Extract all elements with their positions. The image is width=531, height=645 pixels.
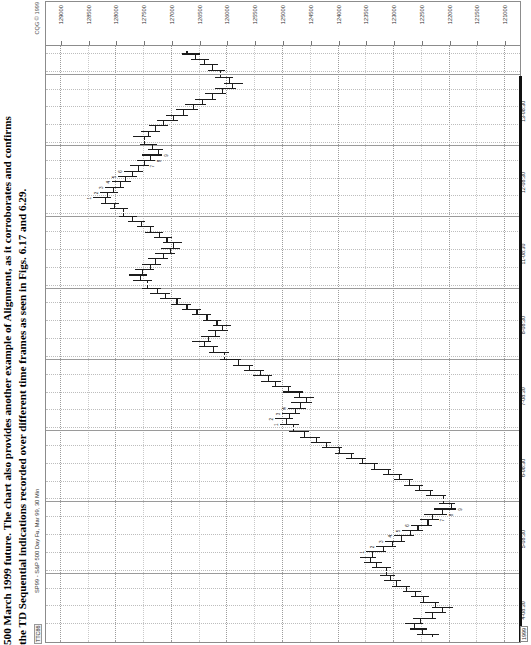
ohlc-bar (205, 93, 226, 94)
ohlc-open-tick (132, 172, 133, 175)
ohlc-bar (133, 280, 152, 281)
session-separator (46, 288, 520, 289)
ohlc-open-tick (306, 398, 307, 401)
ohlc-open-tick (370, 558, 371, 561)
ohlc-bar (209, 352, 229, 353)
ohlc-open-tick (339, 448, 340, 451)
time-gridline (46, 320, 520, 321)
time-axis[interactable]: 4-08:305-08:306-08:307-08:308-08:3011-08… (520, 47, 530, 643)
ohlc-open-tick (289, 414, 290, 417)
ohlc-open-tick (275, 382, 276, 385)
ohlc-bar (282, 413, 300, 414)
time-gridline (46, 588, 520, 589)
ohlc-open-tick (417, 526, 418, 529)
time-gridline (46, 142, 520, 143)
ohlc-bar (195, 99, 216, 100)
td-sequential-count: 9 (164, 154, 169, 157)
price-axis-label: 129000 (58, 5, 64, 24)
time-gridline (46, 356, 520, 357)
ohlc-open-tick (193, 105, 194, 108)
price-plot-area[interactable]: 1234567891234123456789 (45, 45, 521, 643)
price-axis-label: 121000 (502, 5, 508, 24)
price-axis-tick (89, 41, 90, 45)
ohlc-open-tick (401, 536, 402, 539)
ohlc-bar (404, 485, 423, 486)
ohlc-close-tick (186, 51, 187, 54)
ohlc-open-tick (213, 347, 214, 350)
time-gridline (46, 552, 520, 553)
ohlc-open-tick (144, 161, 145, 164)
ohlc-open-tick (166, 238, 167, 241)
ohlc-bar (141, 131, 160, 132)
ohlc-bar (140, 144, 157, 145)
ohlc-open-tick (155, 126, 156, 129)
time-gridline (46, 302, 520, 303)
session-separator (46, 359, 520, 360)
ohlc-bar (380, 575, 396, 576)
ohlc-bar (275, 418, 293, 419)
ohlc-open-tick (105, 198, 106, 201)
ohlc-bar (288, 408, 307, 409)
ohlc-open-tick (372, 552, 373, 555)
ohlc-open-tick (222, 326, 223, 329)
ohlc-bar (244, 370, 264, 371)
ohlc-bar (233, 365, 253, 366)
ohlc-bar (166, 115, 187, 116)
ohlc-bar (150, 293, 170, 294)
ohlc-open-tick (229, 78, 230, 81)
price-axis-label: 124000 (336, 5, 342, 24)
ohlc-open-tick (144, 137, 145, 140)
ohlc-open-tick (295, 409, 296, 412)
ohlc-open-tick (304, 432, 305, 435)
ohlc-bar (148, 258, 168, 259)
ohlc-bar (224, 83, 243, 84)
price-axis-tick (116, 41, 117, 45)
ohlc-bar (110, 208, 128, 209)
ohlc-open-tick (155, 259, 156, 262)
ohlc-open-tick (374, 464, 375, 467)
ohlc-open-tick (148, 132, 149, 135)
session-separator (46, 430, 520, 431)
figure-caption: 500 March 1999 future. The chart also pr… (0, 0, 33, 645)
ohlc-open-tick (114, 204, 115, 207)
td-sequential-count: 6 (405, 524, 410, 527)
ohlc-bar (142, 288, 161, 289)
ohlc-open-tick (351, 454, 352, 457)
ohlc-open-tick (176, 299, 177, 302)
time-gridline (46, 427, 520, 428)
ohlc-open-tick (224, 353, 225, 356)
ohlc-open-tick (123, 209, 124, 212)
ohlc-bar (294, 397, 314, 398)
caption-line-1: 500 March 1999 future. The chart also pr… (0, 0, 15, 645)
td-sequential-count: 8 (449, 514, 454, 517)
td-sequential-count: 7 (150, 165, 155, 168)
td-sequential-count: 3 (99, 186, 104, 189)
ohlc-open-tick (268, 377, 269, 380)
ohlc-open-tick (383, 547, 384, 550)
ohlc-bar (384, 580, 401, 581)
ohlc-bar (203, 320, 221, 321)
ohlc-open-tick (286, 419, 287, 422)
ohlc-open-tick (204, 60, 205, 63)
ohlc-bar (424, 514, 447, 515)
ohlc-bar (366, 551, 386, 552)
price-axis-tick (394, 41, 395, 45)
ohlc-open-tick (238, 360, 239, 363)
cqg-chart: TTC86 SP99 - S&P 500 Day Fu, Mar 99, 30 … (33, 0, 531, 645)
td-sequential-count: 2 (94, 192, 99, 195)
ohlc-open-tick (222, 89, 223, 92)
ohlc-bar (417, 634, 438, 635)
chart-header: TTC86 SP99 - S&P 500 Day Fu, Mar 99, 30 … (33, 0, 44, 645)
time-gridline (46, 338, 520, 339)
ohlc-bar (208, 70, 226, 71)
ohlc-open-tick (451, 504, 452, 507)
price-axis-label: 126500 (197, 5, 203, 24)
price-axis[interactable]: 1290001285001280001275001270001265001260… (45, 1, 521, 45)
ohlc-open-tick (432, 635, 433, 638)
time-gridline (46, 178, 520, 179)
session-range-bar (519, 503, 522, 574)
ohlc-bar (261, 381, 281, 382)
ohlc-open-tick (202, 100, 203, 103)
price-axis-tick (505, 41, 506, 45)
ohlc-bar (394, 535, 414, 536)
